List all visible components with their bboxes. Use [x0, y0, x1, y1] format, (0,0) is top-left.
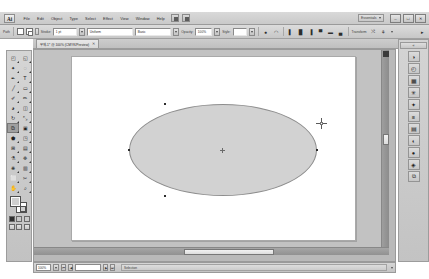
slice-tool[interactable]: ✂: [19, 173, 31, 183]
zoom-tool[interactable]: ⌕: [19, 183, 31, 193]
transparency-panel-icon[interactable]: ◐: [408, 135, 420, 146]
pen-tool[interactable]: ✒: [7, 73, 19, 83]
scroll-up-icon[interactable]: [383, 51, 389, 57]
menu-item-window[interactable]: Window: [132, 14, 153, 23]
align-bottom-edges-icon[interactable]: ▄: [337, 27, 345, 36]
fill-swatch[interactable]: [17, 28, 24, 35]
graphic-style-dropdown[interactable]: [249, 28, 255, 36]
color-guide-panel-icon[interactable]: ◴: [408, 63, 420, 74]
next-page-button[interactable]: ▶: [103, 264, 108, 271]
menu-item-file[interactable]: File: [20, 14, 33, 23]
scale-tool[interactable]: ⤡: [19, 113, 31, 123]
brush-definition-select[interactable]: Basic: [135, 28, 171, 36]
artboard[interactable]: [71, 56, 356, 241]
rotate-icon[interactable]: ⚘: [379, 27, 387, 36]
lasso-tool[interactable]: ◌: [19, 63, 31, 73]
horizontal-scrollbar[interactable]: [34, 247, 389, 255]
paintbrush-tool[interactable]: ✐: [7, 93, 19, 103]
horizontal-scroll-thumb[interactable]: [184, 249, 274, 255]
anchor-point-bottom[interactable]: [164, 195, 166, 197]
expand-panels-button[interactable]: «: [400, 42, 427, 49]
gradient-mode-icon[interactable]: [16, 216, 22, 222]
align-left-icon[interactable]: ◠: [272, 27, 280, 36]
page-number-input[interactable]: [75, 264, 101, 271]
free-transform-tool[interactable]: ▣: [19, 123, 31, 133]
control-bar-overflow-icon[interactable]: ▸: [418, 27, 426, 36]
close-icon[interactable]: ✕: [92, 42, 95, 46]
selection-tool[interactable]: ◰: [7, 53, 19, 63]
zoom-level-input[interactable]: 100%: [36, 264, 51, 271]
canvas-area[interactable]: [34, 50, 389, 255]
normal-screen-mode-icon[interactable]: [9, 224, 15, 230]
none-mode-icon[interactable]: [24, 216, 30, 222]
align-right-edges-icon[interactable]: ▐: [307, 27, 315, 36]
align-left-edges-icon[interactable]: ▌: [287, 27, 295, 36]
mesh-tool[interactable]: ⊞: [7, 143, 19, 153]
direct-selection-tool[interactable]: ◱: [19, 53, 31, 63]
artboard-tool[interactable]: ⬜: [7, 173, 19, 183]
anchor-point-left[interactable]: [128, 149, 130, 151]
stroke-swatch[interactable]: [26, 28, 33, 35]
full-screen-mode-icon[interactable]: [24, 224, 30, 230]
stroke-color-dropdown[interactable]: [35, 28, 39, 35]
magic-wand-tool[interactable]: ✦: [7, 63, 19, 73]
perspective-grid-tool[interactable]: ◳: [19, 133, 31, 143]
stroke-weight-dropdown[interactable]: [79, 28, 85, 36]
line-segment-tool[interactable]: ╱: [7, 83, 19, 93]
menu-item-select[interactable]: Select: [81, 14, 99, 23]
vertical-scroll-thumb[interactable]: [383, 134, 389, 145]
chevron-down-icon[interactable]: [391, 267, 393, 269]
status-info-field[interactable]: Selection: [121, 264, 387, 271]
rectangle-tool[interactable]: ▭: [19, 83, 31, 93]
first-page-button[interactable]: ⏮: [61, 264, 66, 271]
align-center-vertical-icon[interactable]: ▬: [327, 27, 335, 36]
menu-item-edit[interactable]: Edit: [33, 14, 47, 23]
blend-tool[interactable]: ❉: [19, 153, 31, 163]
arrange-documents-icon[interactable]: [182, 14, 190, 22]
minimize-button[interactable]: –: [390, 14, 401, 23]
align-center-horizontal-icon[interactable]: █: [297, 27, 305, 36]
bridge-icon[interactable]: [171, 14, 179, 22]
gradient-tool[interactable]: ▤: [19, 143, 31, 153]
chevron-down-icon[interactable]: [391, 31, 393, 33]
gradient-panel-icon[interactable]: ▤: [408, 123, 420, 134]
hand-tool[interactable]: ✋: [7, 183, 19, 193]
color-mode-icon[interactable]: [9, 216, 15, 222]
opacity-input[interactable]: 100%: [195, 28, 212, 36]
layers-panel-icon[interactable]: ⧉: [408, 171, 420, 182]
rotate-tool[interactable]: ↻: [7, 113, 19, 123]
appearance-panel-icon[interactable]: ●: [408, 147, 420, 158]
menu-item-object[interactable]: Object: [47, 14, 65, 23]
menu-item-type[interactable]: Type: [66, 14, 82, 23]
eraser-tool[interactable]: ◫: [19, 103, 31, 113]
menu-item-effect[interactable]: Effect: [99, 14, 116, 23]
opacity-dropdown[interactable]: [214, 28, 220, 36]
zoom-level-dropdown[interactable]: [53, 264, 59, 271]
menu-item-view[interactable]: View: [117, 14, 133, 23]
stroke-panel-icon[interactable]: ≡: [408, 111, 420, 122]
isolate-selected-object-icon[interactable]: ●: [262, 27, 270, 36]
anchor-point-top[interactable]: [164, 103, 166, 105]
eyedropper-tool[interactable]: ⚗: [7, 153, 19, 163]
graphic-style-select[interactable]: [233, 28, 247, 36]
color-panel-icon[interactable]: ◑: [408, 51, 420, 62]
fill-color-box[interactable]: [10, 196, 21, 207]
close-button[interactable]: ✕: [415, 14, 426, 23]
brush-definition-dropdown[interactable]: [173, 28, 179, 36]
prev-page-button[interactable]: ◀: [68, 264, 73, 271]
pencil-tool[interactable]: ✏: [19, 93, 31, 103]
type-tool[interactable]: T: [19, 73, 31, 83]
symbols-panel-icon[interactable]: ✦: [408, 99, 420, 110]
document-tab[interactable]: 무제-1* @ 100% (CMYK/Preview) ✕: [36, 39, 99, 48]
last-page-button[interactable]: ⏭: [110, 264, 115, 271]
anchor-point-right[interactable]: [316, 149, 318, 151]
blob-brush-tool[interactable]: ◕: [7, 103, 19, 113]
vertical-scrollbar[interactable]: [381, 50, 389, 255]
full-screen-menubar-mode-icon[interactable]: [16, 224, 22, 230]
align-top-edges-icon[interactable]: ▀: [317, 27, 325, 36]
column-graph-tool[interactable]: ▥: [19, 163, 31, 173]
stroke-weight-input[interactable]: 1 pt: [53, 28, 77, 36]
workspace-switcher[interactable]: Essentials: [358, 14, 383, 22]
shape-builder-tool[interactable]: ⬟: [7, 133, 19, 143]
menu-item-help[interactable]: Help: [153, 14, 168, 23]
